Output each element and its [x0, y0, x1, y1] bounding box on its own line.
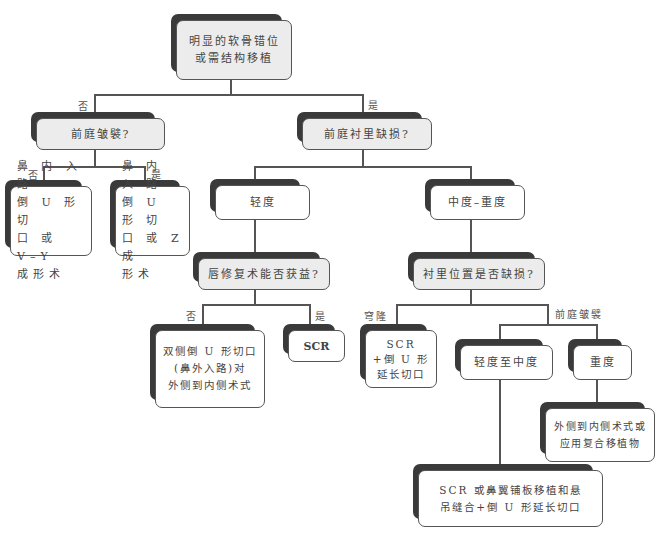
connector [94, 94, 362, 96]
node-lip-repair-benefit-question: 唇修复术能否获益? [198, 258, 330, 290]
node-mild-to-moderate: 轻度至中度 [460, 345, 553, 380]
edge-label-root-yes: 是 [368, 97, 380, 112]
connector [230, 80, 232, 94]
connector [362, 150, 364, 166]
node-text: SCR [304, 338, 330, 355]
node-leaf-yes-webbing: 鼻 内 入 路 倒 U 形 切 口 或 Z 成 形术 [115, 186, 190, 256]
node-text: 轻度至中度 [474, 354, 539, 371]
node-severe: 重度 [573, 345, 632, 380]
node-text: 中度–重度 [448, 194, 508, 211]
node-text: 鼻 内 入 路 倒 U 形 切 口 或 Z 成 形术 [122, 158, 185, 284]
node-scr-alar-flap: SCR 或鼻翼铺板移植和悬 吊缝合+倒 U 形延长切口 [418, 470, 603, 527]
node-text: 明显的软骨错位 或需结构移植 [189, 33, 280, 67]
connector [470, 290, 472, 304]
connector [499, 380, 501, 470]
node-text: 外侧到内侧术式或 应用复合移植物 [554, 418, 646, 452]
connector [94, 150, 96, 166]
connector [396, 304, 547, 306]
node-text: 鼻 内 入 路 倒 U 形 切 口 或 V–Y 成形术 [17, 158, 87, 284]
connector [499, 324, 596, 326]
node-vestibular-webbing-question: 前庭皱襞? [36, 118, 165, 150]
connector [202, 304, 309, 306]
node-moderate-severe: 中度–重度 [430, 185, 525, 220]
node-text: SCR 或鼻翼铺板移植和悬 吊缝合+倒 U 形延长切口 [439, 482, 581, 516]
connector [547, 304, 549, 324]
node-text: 前庭衬里缺损? [324, 126, 410, 143]
node-root: 明显的软骨错位 或需结构移植 [176, 20, 292, 80]
edge-label-lip-no: 否 [186, 308, 198, 323]
node-text: 唇修复术能否获益? [208, 266, 320, 283]
node-lining-location-defect-question: 衬里位置是否缺损? [413, 258, 545, 290]
node-scr: SCR [288, 330, 345, 362]
edge-label-dome: 穹隆 [364, 308, 388, 323]
node-scr-inverted-u: SCR +倒 U 形 延长切口 [365, 330, 437, 388]
edge-label-root-no: 否 [78, 98, 90, 113]
node-bilateral-inverted-u: 双侧倒 U 形切口 (鼻外入路)对 外侧到内侧术式 [155, 330, 265, 408]
node-text: 双侧倒 U 形切口 (鼻外入路)对 外侧到内侧术式 [163, 343, 257, 394]
node-text: SCR +倒 U 形 延长切口 [373, 337, 429, 382]
node-lateral-to-medial: 外侧到内侧术式或 应用复合移植物 [545, 408, 655, 462]
node-mild: 轻度 [215, 185, 310, 220]
node-text: 轻度 [250, 194, 276, 211]
edge-label-lip-yes: 是 [315, 308, 327, 323]
edge-label-vestibular-webbing: 前庭皱襞 [555, 306, 603, 321]
connector [254, 290, 256, 304]
node-text: 前庭皱襞? [71, 126, 131, 143]
connector [254, 166, 470, 168]
node-vestibular-lining-defect-question: 前庭衬里缺损? [302, 118, 432, 150]
node-text: 重度 [590, 354, 616, 371]
node-leaf-no-webbing: 鼻 内 入 路 倒 U 形 切 口 或 V–Y 成形术 [10, 186, 92, 256]
node-text: 衬里位置是否缺损? [423, 266, 535, 283]
